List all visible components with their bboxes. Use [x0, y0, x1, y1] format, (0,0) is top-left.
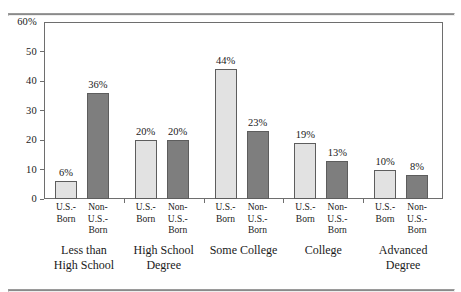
x-tick-label-line: Born — [395, 225, 439, 237]
x-tick-label-line: Non- — [236, 202, 280, 214]
bar-us-born — [294, 143, 316, 199]
x-tick-label-line: U.S.- — [156, 214, 200, 226]
y-tick-50: 50 — [0, 46, 44, 58]
bar-non-us-born — [406, 175, 428, 199]
x-tick-label-line: Non- — [395, 202, 439, 214]
x-tick-label-line: Born — [76, 225, 120, 237]
x-tick-label-line: U.S.- — [76, 214, 120, 226]
x-tick-label-non-us-born: Non-U.S.-Born — [236, 202, 280, 237]
x-axis-group-labels: Less thanHigh SchoolHigh SchoolDegreeSom… — [44, 243, 443, 279]
bar-value-label: 23% — [238, 117, 278, 129]
y-tick-30: 30 — [0, 105, 44, 117]
bar-value-label: 6% — [46, 167, 86, 179]
bar-value-label: 19% — [285, 129, 325, 141]
bar-us-born — [374, 170, 396, 200]
bar-non-us-born — [167, 140, 189, 199]
group-label-line: Degree — [353, 258, 453, 273]
x-tick-label-line: Born — [315, 225, 359, 237]
x-tick-label-line: Non- — [156, 202, 200, 214]
bar-value-label: 8% — [397, 161, 437, 173]
y-tick-label: 60% — [17, 16, 44, 28]
x-tick-label-non-us-born: Non-U.S.-Born — [315, 202, 359, 237]
bar-value-label: 44% — [206, 55, 246, 67]
group-label-line: Degree — [114, 258, 214, 273]
y-axis: 0102030405060% — [0, 22, 44, 200]
x-tick-label-line: U.S.- — [315, 214, 359, 226]
bar-us-born — [55, 181, 77, 199]
bar-us-born — [215, 69, 237, 199]
bar-non-us-born — [326, 161, 348, 199]
bar-value-label: 13% — [317, 147, 357, 159]
x-tick-label-line: Born — [156, 225, 200, 237]
bar-value-label: 20% — [158, 126, 198, 138]
x-tick-label-non-us-born: Non-U.S.-Born — [395, 202, 439, 237]
x-tick-label-non-us-born: Non-U.S.-Born — [156, 202, 200, 237]
y-tick-10: 10 — [0, 164, 44, 176]
x-axis-series-labels: U.S.-BornNon-U.S.-BornU.S.-BornNon-U.S.-… — [44, 202, 443, 248]
x-tick-label-line: U.S.- — [236, 214, 280, 226]
group-label: AdvancedDegree — [353, 243, 453, 273]
bar-non-us-born — [247, 131, 269, 199]
x-tick-label-line: Born — [236, 225, 280, 237]
x-tick-label-line: Non- — [76, 202, 120, 214]
bar-us-born — [135, 140, 157, 199]
bar-non-us-born — [87, 93, 109, 199]
bar-value-label: 36% — [78, 79, 118, 91]
y-tick-40: 40 — [0, 75, 44, 87]
x-tick-label-non-us-born: Non-U.S.-Born — [76, 202, 120, 237]
group-label-line: Advanced — [353, 243, 453, 258]
y-tick-0: 0 — [0, 193, 44, 205]
x-tick-label-line: U.S.- — [395, 214, 439, 226]
y-tick-60: 60% — [0, 16, 44, 28]
bars-layer: 6%36%20%20%44%23%19%13%10%8% — [44, 22, 443, 199]
y-tick-20: 20 — [0, 134, 44, 146]
x-tick-label-line: Non- — [315, 202, 359, 214]
